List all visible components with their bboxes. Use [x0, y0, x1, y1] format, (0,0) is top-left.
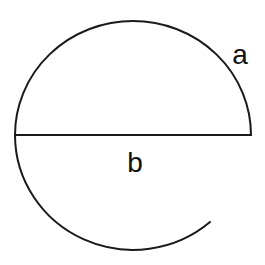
lower-arc [15, 135, 210, 250]
upper-arc [15, 21, 251, 135]
diameter-label-b: b [127, 147, 143, 178]
diagram-canvas: a b [0, 0, 265, 265]
arc-label-a: a [232, 39, 248, 70]
